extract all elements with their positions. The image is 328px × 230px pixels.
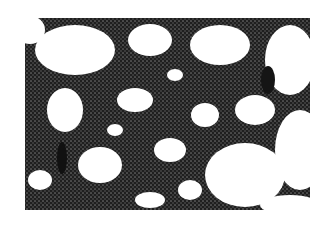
dense-region: [261, 66, 275, 94]
micrograph: [0, 0, 328, 230]
cell-cluster-texture: [0, 0, 328, 230]
dense-region: [57, 142, 67, 174]
